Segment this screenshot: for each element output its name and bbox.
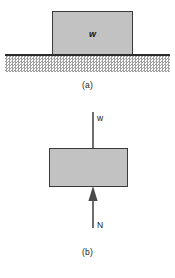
- panel-a: w (a): [0, 0, 175, 100]
- block-weight-label: w: [89, 29, 96, 38]
- caption-a: (a): [0, 80, 175, 90]
- free-body-block: [49, 148, 128, 187]
- block-on-ground: w: [52, 11, 133, 55]
- normal-force-label: N: [97, 221, 103, 230]
- ground-hatching: [5, 56, 170, 72]
- weight-force-label: w: [97, 114, 103, 123]
- weight-force-arrow: [88, 112, 97, 177]
- physics-figure: w (a) w N (b): [0, 0, 175, 278]
- normal-force-arrow: [88, 186, 97, 228]
- caption-b: (b): [0, 247, 175, 257]
